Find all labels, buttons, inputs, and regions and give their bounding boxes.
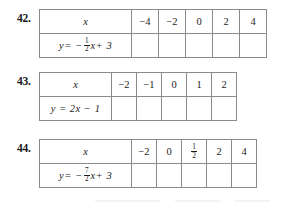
equation-lhs: y	[51, 103, 56, 114]
equals-sign: =	[64, 40, 72, 51]
variable-x-label: x	[83, 16, 88, 27]
y-answer-cell[interactable]	[207, 164, 232, 188]
equation-constant: 1	[95, 103, 101, 114]
y-answer-cell[interactable]	[157, 164, 182, 188]
equation-expression: y= −72x+ 3	[59, 170, 112, 181]
equation-constant: 3	[107, 40, 113, 51]
y-answer-cell[interactable]	[137, 97, 162, 121]
y-answer-cell[interactable]	[162, 97, 187, 121]
fraction-numerator: 1	[84, 38, 90, 45]
equation-constant: 3	[107, 170, 113, 181]
exercise-number-43: 43.	[17, 72, 39, 87]
worksheet-page: 42. x −4 −2 0 2 4 y= −	[0, 0, 290, 208]
x-value-cell[interactable]: 4	[240, 10, 267, 34]
row-label-x: x	[40, 10, 132, 34]
y-answer-cell[interactable]	[186, 34, 213, 58]
x-value-cell[interactable]: −2	[132, 140, 157, 164]
x-value-cell[interactable]: 0	[157, 140, 182, 164]
scan-artifact	[95, 200, 160, 202]
exercise-42: 42. x −4 −2 0 2 4 y= −	[17, 9, 267, 58]
fraction-denominator: 2	[84, 45, 90, 53]
fraction-denominator: 2	[84, 175, 90, 183]
fraction-one-half: 12	[191, 143, 197, 159]
row-label-x: x	[40, 140, 132, 164]
function-table-42: x −4 −2 0 2 4 y= −12x+ 3	[39, 9, 267, 58]
plus-sign: +	[95, 40, 103, 51]
equals-sign: =	[59, 103, 67, 114]
y-answer-cell[interactable]	[182, 164, 207, 188]
table-row: x −4 −2 0 2 4	[40, 10, 267, 34]
exercise-43: 43. x −2 −1 0 1 2 y =	[17, 72, 237, 121]
x-value-cell[interactable]: 2	[207, 140, 232, 164]
x-value-cell[interactable]: −1	[137, 73, 162, 97]
fraction-numerator: 7	[84, 168, 90, 175]
plus-sign: +	[95, 170, 103, 181]
table-row: y = 2x − 1	[40, 97, 237, 121]
function-table-43: x −2 −1 0 1 2 y = 2x − 1	[39, 72, 237, 121]
variable-x-label: x	[83, 146, 88, 157]
y-answer-cell[interactable]	[132, 164, 157, 188]
table-row: x −2 0 12 2 4	[40, 140, 257, 164]
minus-sign: −	[83, 103, 91, 114]
table-row: y= −12x+ 3	[40, 34, 267, 58]
minus-sign: −	[75, 40, 83, 51]
row-label-x: x	[40, 73, 112, 97]
x-value-cell[interactable]: 2	[213, 10, 240, 34]
fraction-numerator: 1	[191, 143, 197, 151]
exercise-44: 44. x −2 0 12 2 4 y= −	[17, 139, 257, 188]
row-label-equation: y = 2x − 1	[40, 97, 112, 121]
table-row: x −2 −1 0 1 2	[40, 73, 237, 97]
y-answer-cell[interactable]	[232, 164, 257, 188]
fraction-denominator: 2	[191, 151, 197, 160]
variable-x-label: x	[73, 79, 78, 90]
x-value-cell[interactable]: 0	[186, 10, 213, 34]
exercise-number-42: 42.	[17, 9, 39, 24]
x-value-cell[interactable]: 1	[187, 73, 212, 97]
fraction-one-half: 12	[84, 38, 90, 54]
function-table-44: x −2 0 12 2 4 y= −72x+ 3	[39, 139, 257, 188]
x-value-cell[interactable]: 2	[212, 73, 237, 97]
y-answer-cell[interactable]	[240, 34, 267, 58]
scan-artifact	[175, 200, 220, 202]
equals-sign: =	[64, 170, 72, 181]
scan-artifact	[235, 200, 270, 202]
equation-variable: 2x	[70, 103, 81, 114]
equation-expression: y = 2x − 1	[51, 103, 100, 114]
x-value-cell-fraction[interactable]: 12	[182, 140, 207, 164]
exercise-number-44: 44.	[17, 139, 39, 154]
x-value-cell[interactable]: −2	[159, 10, 186, 34]
y-answer-cell[interactable]	[212, 97, 237, 121]
row-label-equation: y= −12x+ 3	[40, 34, 132, 58]
y-answer-cell[interactable]	[213, 34, 240, 58]
table-row: y= −72x+ 3	[40, 164, 257, 188]
x-value-cell[interactable]: 4	[232, 140, 257, 164]
equation-expression: y= −12x+ 3	[59, 40, 112, 51]
y-answer-cell[interactable]	[187, 97, 212, 121]
y-answer-cell[interactable]	[132, 34, 159, 58]
x-value-cell[interactable]: −2	[112, 73, 137, 97]
x-value-cell[interactable]: −4	[132, 10, 159, 34]
x-value-cell[interactable]: 0	[162, 73, 187, 97]
row-label-equation: y= −72x+ 3	[40, 164, 132, 188]
fraction-seven-halves: 72	[84, 168, 90, 184]
minus-sign: −	[75, 170, 83, 181]
y-answer-cell[interactable]	[159, 34, 186, 58]
y-answer-cell[interactable]	[112, 97, 137, 121]
